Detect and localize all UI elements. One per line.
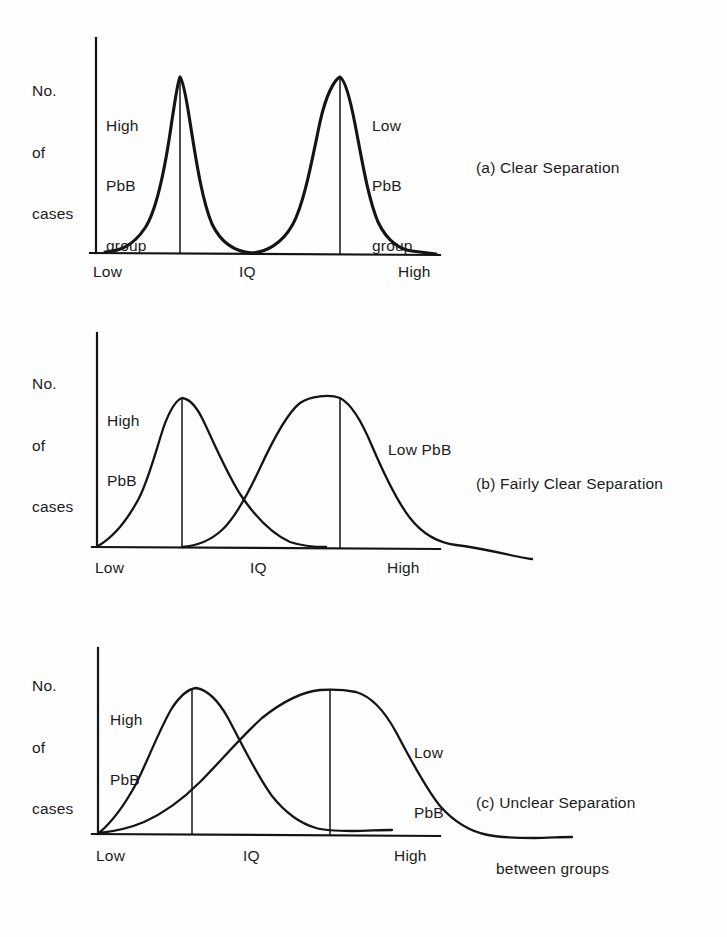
panel-a-clear-separation: No. of cases High PbB group Low PbB grou… (0, 0, 727, 310)
panel-b-caption: (b) Fairly Clear Separation (476, 473, 663, 495)
panel-c-unclear-separation: No. of cases High PbB Low PbB Low IQ Hig… (0, 610, 727, 937)
panel-b-fairly-clear-separation: No. of cases High PbB Low PbB Low IQ Hig… (0, 310, 727, 610)
panel-b-x-axis (92, 547, 440, 549)
panel-b-y-axis-label: No. of cases (32, 333, 74, 559)
panel-c-xtick-low: Low (96, 846, 125, 866)
panel-a-y-axis-label: No. of cases (32, 40, 74, 266)
panel-b-low-pbb-label: Low PbB (388, 400, 451, 500)
panel-b-x-axis-label: IQ (250, 558, 267, 578)
panel-b-xtick-high: High (387, 558, 420, 578)
panel-c-low-pbb-label: Low PbB (414, 703, 444, 863)
panel-b-high-pbb-label: High PbB (107, 371, 140, 531)
panel-b-xtick-low: Low (95, 558, 124, 578)
panel-c-xtick-high: High (394, 846, 427, 866)
panel-c-x-axis (92, 834, 440, 836)
panel-c-y-axis-label: No. of cases (32, 635, 74, 861)
panel-c-caption: (c) Unclear Separation between groups (476, 748, 635, 924)
panel-c-x-axis-label: IQ (243, 846, 260, 866)
panel-a-x-axis-label: IQ (239, 262, 256, 282)
panel-c-high-pbb-label: High PbB (110, 670, 143, 830)
panel-a-xtick-high: High (398, 262, 431, 282)
figure-sheet: No. of cases High PbB group Low PbB grou… (0, 0, 727, 937)
panel-c-high-pbb-curve (99, 688, 392, 833)
panel-a-xtick-low: Low (93, 262, 122, 282)
panel-a-caption: (a) Clear Separation (476, 157, 620, 179)
